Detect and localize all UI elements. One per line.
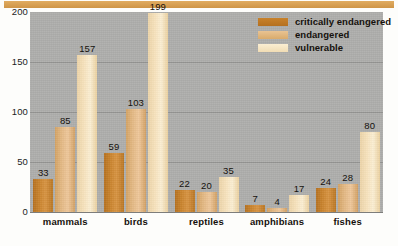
bar-value-label: 80 <box>354 120 386 131</box>
bar <box>338 184 358 212</box>
bar-value-label: 33 <box>27 167 59 178</box>
y-tick-label: 150 <box>2 56 28 67</box>
bar-value-label: 35 <box>213 165 245 176</box>
bar-value-label: 20 <box>191 180 223 191</box>
legend-item[interactable]: endangered <box>258 29 390 40</box>
top-decorative-band <box>4 1 394 8</box>
legend-item[interactable]: critically endangered <box>258 16 390 27</box>
bar-value-label: 103 <box>120 97 152 108</box>
category-label-amphibians: amphibians <box>242 216 313 227</box>
legend-label: endangered <box>295 29 349 40</box>
legend-swatch-icon <box>258 31 288 39</box>
bar <box>33 179 53 212</box>
legend-swatch-icon <box>258 44 288 52</box>
bar-value-label: 28 <box>332 172 364 183</box>
legend-label: critically endangered <box>295 16 391 27</box>
bar-value-label: 85 <box>49 115 81 126</box>
y-tick-label: 50 <box>2 156 28 167</box>
bar-value-label: 4 <box>261 196 293 207</box>
category-label-birds: birds <box>101 216 172 227</box>
category-label-fishes: fishes <box>312 216 383 227</box>
category-label-reptiles: reptiles <box>171 216 242 227</box>
bar <box>197 192 217 212</box>
bar-chart-figure: 050100150200 338515759103199222035741724… <box>0 0 398 246</box>
chart-legend: critically endangeredendangeredvulnerabl… <box>258 16 390 55</box>
bar-value-label: 59 <box>98 141 130 152</box>
bar-value-label: 199 <box>142 1 174 12</box>
legend-label: vulnerable <box>295 42 343 53</box>
legend-swatch-icon <box>258 18 288 26</box>
category-label-mammals: mammals <box>30 216 101 227</box>
legend-item[interactable]: vulnerable <box>258 42 390 53</box>
x-axis-line <box>30 212 383 213</box>
bar <box>267 208 287 212</box>
bar <box>126 109 146 212</box>
bar-value-label: 157 <box>71 43 103 54</box>
bar <box>104 153 124 212</box>
y-tick-label: 0 <box>2 206 28 217</box>
bar <box>77 55 97 212</box>
y-tick-label: 100 <box>2 106 28 117</box>
y-axis-tick-labels: 050100150200 <box>0 12 28 213</box>
bar <box>316 188 336 212</box>
y-tick-label: 200 <box>2 6 28 17</box>
bar <box>175 190 195 212</box>
bar <box>148 13 168 212</box>
